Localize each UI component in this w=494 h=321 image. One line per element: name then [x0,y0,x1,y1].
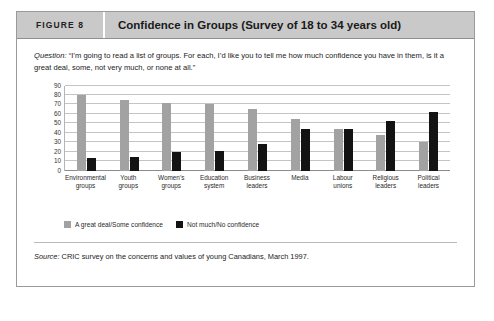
bar [248,109,257,170]
bar [429,112,438,171]
legend-item: Not much/No confidence [176,221,259,228]
y-axis-tick-label: 80 [54,90,61,97]
y-axis-tick-label: 0 [57,166,61,173]
bar-group [407,86,450,171]
y-axis-tick-label: 10 [54,157,61,164]
bar [130,157,139,170]
y-axis-tick-label: 20 [54,147,61,154]
legend-swatch [176,221,183,228]
question-text: “I’m going to read a list of groups. For… [34,51,444,72]
source-label: Source: [34,252,59,261]
x-axis-label: Women’sgroups [150,174,193,191]
bar [291,119,300,171]
figure-box: FIGURE 8 Confidence in Groups (Survey of… [16,11,475,287]
x-axis-labels: EnvironmentalgroupsYouthgroupsWomen’sgro… [64,174,450,191]
x-axis-label: Religiousleaders [364,174,407,191]
chart-legend: A great deal/Some confidenceNot much/No … [64,221,474,228]
bar [376,135,385,171]
bar [334,129,343,171]
x-axis-label: Politicalleaders [407,174,450,191]
source-line: Source: CRIC survey on the concerns and … [17,243,474,261]
legend-swatch [64,221,71,228]
bar-group [364,86,407,171]
plot-area: 0102030405060708090 [64,86,450,171]
bar [386,121,395,170]
bar-group [193,86,236,171]
y-axis-tick-label: 30 [54,138,61,145]
figure-number-label: FIGURE 8 [17,12,105,38]
bar [301,129,310,171]
y-axis-tick-label: 70 [54,100,61,107]
figure-title: Confidence in Groups (Survey of 18 to 34… [105,12,474,38]
x-axis-label: Businessleaders [236,174,279,191]
bar [162,103,171,171]
bar-group [236,86,279,171]
question-block: Question: “I’m going to read a list of g… [17,39,474,74]
x-axis-label: Educationsystem [193,174,236,191]
y-axis-tick-label: 40 [54,128,61,135]
bar-group [279,86,322,171]
y-axis-tick-label: 90 [54,81,61,88]
bar [344,129,353,171]
legend-item: A great deal/Some confidence [64,221,163,228]
bar [258,144,267,170]
bar-group [151,86,194,171]
y-axis-tick-label: 50 [54,119,61,126]
bar [205,104,214,170]
x-axis-label: Youthgroups [107,174,150,191]
x-axis-label: Labourunions [321,174,364,191]
x-axis-label: Media [278,174,321,191]
source-text: CRIC survey on the concerns and values o… [59,252,308,261]
y-axis-tick-label: 60 [54,109,61,116]
question-label: Question: [34,51,67,60]
bar-group [65,86,108,171]
bar [172,152,181,171]
bar-group [322,86,365,171]
legend-label: A great deal/Some confidence [75,221,163,228]
bar [215,151,224,171]
bar [419,142,428,170]
bar [77,95,86,171]
bar-chart: 0102030405060708090 EnvironmentalgroupsY… [17,82,474,194]
bar-groups [65,86,450,171]
bar [120,100,129,171]
bar [87,158,96,170]
legend-label: Not much/No confidence [187,221,259,228]
bar-group [108,86,151,171]
figure-header: FIGURE 8 Confidence in Groups (Survey of… [17,12,474,39]
x-axis-label: Environmentalgroups [64,174,107,191]
